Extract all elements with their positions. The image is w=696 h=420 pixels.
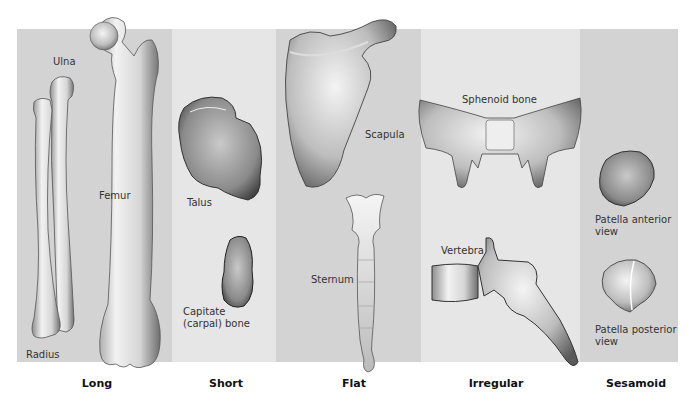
label-capitate-line1: Capitate [183,306,225,318]
capitate-bone [222,236,253,307]
category-irregular: Irregular [456,377,536,390]
category-long: Long [72,377,122,390]
label-ulna: Ulna [53,56,76,68]
category-flat: Flat [324,377,384,390]
category-short: Short [196,377,256,390]
label-sphenoid: Sphenoid bone [462,94,537,106]
label-patella-anterior-line1: Patella anterior [595,214,671,226]
scapula-bone [285,20,396,187]
talus-bone [179,97,262,200]
category-sesamoid: Sesamoid [596,377,676,390]
label-talus: Talus [187,197,212,209]
label-scapula: Scapula [365,129,405,141]
label-patella-posterior-line2: view [595,336,618,348]
sphenoid-bone [419,98,581,188]
bone-illustrations [0,0,696,420]
patella-posterior-bone [602,260,656,312]
patella-anterior-bone [600,151,655,206]
label-radius: Radius [26,349,60,361]
label-capitate-line2: (carpal) bone [183,318,250,330]
label-sternum: Sternum [311,274,354,286]
label-patella-anterior-line2: view [595,226,618,238]
label-patella-posterior-line1: Patella posterior [595,324,677,336]
label-vertebra: Vertebra [441,245,484,257]
label-femur: Femur [99,190,131,202]
